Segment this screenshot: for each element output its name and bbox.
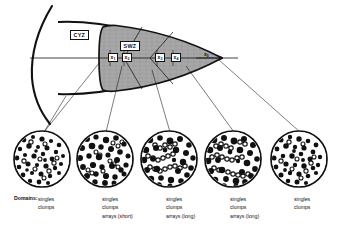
x-tick-x2: x2	[122, 53, 132, 62]
domain-line: clumps	[102, 203, 133, 211]
x-tick-subscript: 1	[113, 57, 115, 61]
diagram-canvas	[0, 0, 344, 228]
x-tick-x5: x5	[204, 52, 209, 58]
x-tick-subscript: 4	[176, 57, 178, 61]
domain-line: arrays (short)	[102, 212, 133, 220]
domain-column-1: singles clumps	[38, 195, 54, 212]
micrograph-circle-1	[14, 131, 70, 187]
micrograph-circle-5	[271, 131, 327, 187]
x-tick-x1: x1	[108, 53, 118, 62]
cell-outline	[32, 6, 52, 124]
x-tick-x3: x3	[155, 53, 165, 62]
domain-line: singles	[294, 195, 310, 203]
cytoplasmic-zone-label: CYZ	[70, 30, 89, 40]
micrograph-circle-2	[77, 131, 133, 187]
domain-line: singles	[38, 195, 54, 203]
domain-line: clumps	[38, 203, 54, 211]
domain-line: singles	[230, 195, 259, 203]
x-tick-x4: x4	[171, 53, 181, 62]
x-tick-subscript: 2	[127, 57, 129, 61]
figure-root: CYZ SWZ x1 x2 x3 x4 x5 Domains: singles …	[0, 0, 344, 228]
domain-line: singles	[166, 195, 195, 203]
surface-wall-zone-label: SWZ	[120, 41, 140, 51]
domains-caption: Domains:	[14, 196, 38, 201]
domain-line: arrays (long)	[230, 212, 259, 220]
x-tick-subscript: 5	[207, 54, 209, 58]
domain-line: clumps	[166, 203, 195, 211]
domain-line: arrays (long)	[166, 212, 195, 220]
domain-line: singles	[102, 195, 133, 203]
domain-line: clumps	[230, 203, 259, 211]
domain-column-3: singles clumps arrays (long)	[166, 195, 195, 220]
domain-line: clumps	[294, 203, 310, 211]
x-tick-subscript: 3	[160, 57, 162, 61]
domain-column-2: singles clumps arrays (short)	[102, 195, 133, 220]
micrograph-circle-3	[141, 131, 197, 189]
micrograph-circle-4	[205, 131, 261, 189]
domain-column-4: singles clumps arrays (long)	[230, 195, 259, 220]
domain-column-5: singles clumps	[294, 195, 310, 212]
